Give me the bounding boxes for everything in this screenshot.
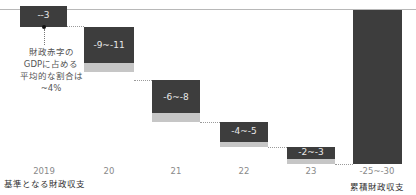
x-label-2019: 2019 [19,166,69,176]
bar-23: -2~-3 [287,147,335,164]
annotation: 財政赤字の GDPに占める 平均的な割合は ~4% [10,46,92,94]
bar-22: -4~-5 [220,122,268,147]
bar-label: -9~-11 [84,40,134,50]
sublabel-cumulative: 累積財政収支 [350,180,404,192]
bar-label: -6~-8 [152,92,200,102]
sublabel-baseline: 基準となる財政収支 [4,177,85,189]
x-label-21: 21 [151,166,201,176]
bar-cumulative [353,10,402,164]
bar-20: -9~-11 [84,27,134,72]
x-label-23: 23 [286,166,336,176]
x-label-22: 22 [219,166,269,176]
bar-label: --3 [20,10,67,20]
bar-21: -6~-8 [152,80,200,122]
bar-2019: --3 [20,6,67,27]
bar-label: -2~-3 [287,147,335,157]
bar-label: -4~-5 [220,126,268,136]
x-label-20: 20 [84,166,134,176]
x-label-cumulative: -25~-30 [352,166,402,176]
